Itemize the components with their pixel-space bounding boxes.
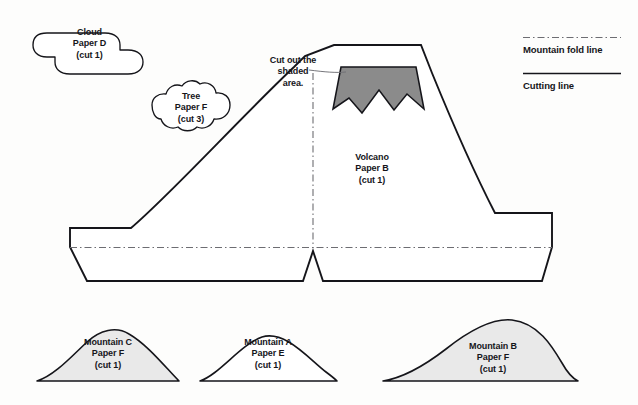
- template-artwork: [0, 0, 638, 405]
- volcano-b-outline: [70, 45, 552, 281]
- piece-cloud-d[interactable]: [33, 33, 143, 74]
- mountain-a-outline: [200, 336, 337, 381]
- tree-f-outline: [152, 81, 230, 131]
- legend-swatches: [523, 38, 621, 74]
- piece-tree-f[interactable]: [152, 81, 230, 131]
- piece-volcano-b[interactable]: [70, 45, 552, 281]
- piece-mountain-b[interactable]: [383, 320, 578, 381]
- mountain-c-outline: [37, 330, 179, 381]
- piece-mountain-c[interactable]: [37, 330, 179, 381]
- papercraft-template-sheet: Cloud Paper D (cut 1) Tree Paper F (cut …: [0, 0, 638, 405]
- mountain-b-outline: [383, 320, 578, 381]
- cloud-d-outline: [33, 33, 143, 74]
- piece-mountain-a[interactable]: [200, 336, 337, 381]
